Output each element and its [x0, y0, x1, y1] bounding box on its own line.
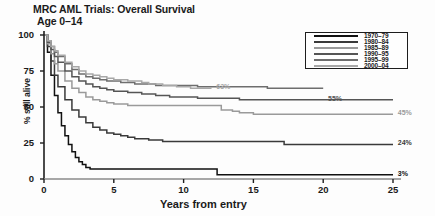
curve-value-label: 3%	[398, 170, 408, 177]
curve-value-label: 55%	[328, 95, 342, 102]
curve-value-label: 45%	[398, 109, 412, 116]
x-tick-label: 15	[244, 184, 262, 195]
legend-line-icon	[314, 35, 358, 37]
legend-item[interactable]: 2000–04	[306, 63, 407, 69]
x-tick-label: 25	[384, 184, 402, 195]
x-tick-label: 10	[175, 184, 193, 195]
x-tick-label: 5	[105, 184, 123, 195]
legend-line-icon	[314, 47, 358, 49]
legend-line-icon	[314, 53, 358, 55]
y-tick-label: 75	[8, 65, 34, 76]
legend-line-icon	[314, 65, 358, 67]
curve-value-label: 63%	[216, 83, 230, 90]
y-tick-label: 0	[8, 173, 34, 184]
y-tick-label: 100	[8, 29, 34, 40]
x-tick-label: 0	[35, 184, 53, 195]
chart-figure: MRC AML Trials: Overall Survival Age 0–1…	[0, 0, 435, 216]
x-axis-label: Years from entry	[160, 198, 247, 210]
y-tick-label: 50	[8, 101, 34, 112]
chart-legend: 1970–791980–841985–891990–951995–992000–…	[305, 32, 408, 69]
legend-line-icon	[314, 41, 358, 43]
x-tick-label: 20	[314, 184, 332, 195]
y-tick-label: 25	[8, 137, 34, 148]
legend-label: 2000–04	[364, 63, 389, 69]
curve-value-label: 24%	[398, 139, 412, 146]
legend-line-icon	[314, 59, 358, 61]
